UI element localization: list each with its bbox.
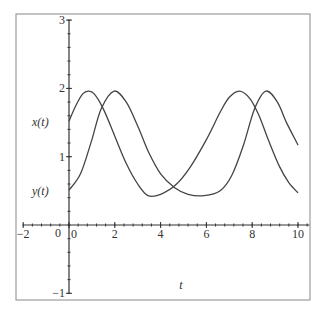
series-label-y: y(t) (31, 184, 49, 198)
x-tick-label: 0 (71, 227, 77, 241)
y-tick-label: −1 (52, 286, 65, 300)
y-tick-label: 1 (59, 150, 65, 164)
x-tick-label: 6 (203, 227, 209, 241)
x-tick-label: 10 (292, 227, 304, 241)
x-tick-label: 4 (158, 227, 164, 241)
x-tick-label: −2 (17, 227, 30, 241)
series-label-x: x(t) (31, 115, 49, 129)
origin-label-left: 0 (55, 226, 61, 240)
y-tick-label: 2 (59, 81, 65, 95)
x-tick-label: 2 (112, 227, 118, 241)
line-chart: −20246810−1123 x(t) y(t) 0 t (0, 0, 326, 314)
x-tick-label: 8 (249, 227, 255, 241)
y-tick-label: 3 (59, 13, 65, 27)
